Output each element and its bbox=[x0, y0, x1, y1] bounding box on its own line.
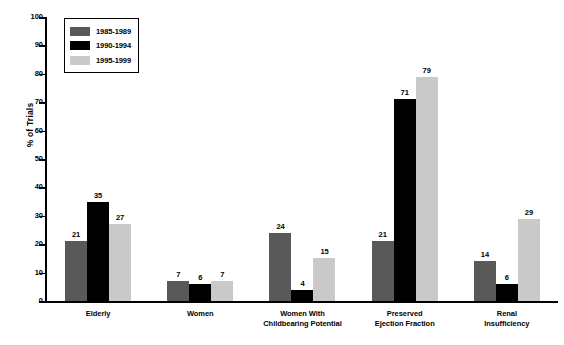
bar bbox=[189, 284, 211, 301]
x-axis-line bbox=[45, 301, 558, 303]
bar-value-label: 29 bbox=[525, 209, 533, 217]
x-axis-category-line: Women bbox=[145, 309, 255, 319]
y-tick-mark bbox=[39, 74, 45, 76]
bar-value-label: 27 bbox=[116, 214, 124, 222]
legend-item: 1990-1994 bbox=[70, 39, 131, 52]
bar bbox=[496, 284, 518, 301]
bar-value-label: 7 bbox=[176, 271, 180, 279]
bar bbox=[474, 261, 496, 301]
bar-value-label: 7 bbox=[220, 271, 224, 279]
x-axis-category-line: Women With bbox=[247, 309, 357, 319]
bar-chart: % of Trials 1009080706050403020100 21352… bbox=[0, 0, 564, 345]
x-axis-category-line: Preserved bbox=[350, 309, 460, 319]
y-tick-mark bbox=[39, 17, 45, 19]
bar bbox=[167, 281, 189, 301]
bar-value-label: 24 bbox=[276, 223, 284, 231]
bar-value-label: 21 bbox=[72, 231, 80, 239]
x-axis-category-label: Women WithChildbearing Potential bbox=[247, 309, 357, 328]
bar-item: 24 bbox=[269, 17, 291, 301]
bar bbox=[109, 224, 131, 301]
bar-item: 7 bbox=[167, 17, 189, 301]
x-axis-category-label: Elderly bbox=[43, 309, 153, 319]
bar-item: 6 bbox=[496, 17, 518, 301]
legend-swatch bbox=[70, 56, 90, 65]
x-axis-category-line: Insufficiency bbox=[452, 319, 562, 329]
legend-label: 1990-1994 bbox=[96, 41, 131, 50]
legend-label: 1995-1999 bbox=[96, 56, 131, 65]
x-axis-category-line: Childbearing Potential bbox=[247, 319, 357, 329]
y-tick-mark bbox=[39, 45, 45, 47]
bar bbox=[65, 241, 87, 301]
bar-item: 79 bbox=[416, 17, 438, 301]
legend-swatch bbox=[70, 27, 90, 36]
y-tick-mark bbox=[39, 102, 45, 104]
bar-item: 21 bbox=[372, 17, 394, 301]
bar bbox=[291, 290, 313, 301]
bar-value-label: 6 bbox=[198, 274, 202, 282]
bar-value-label: 14 bbox=[481, 251, 489, 259]
x-axis-category-label: RenalInsufficiency bbox=[452, 309, 562, 328]
bar-value-label: 35 bbox=[94, 192, 102, 200]
y-tick-mark bbox=[39, 187, 45, 189]
bar bbox=[416, 77, 438, 301]
bar bbox=[518, 219, 540, 301]
bar-item: 71 bbox=[394, 17, 416, 301]
bar-group-bars: 217179 bbox=[354, 17, 456, 301]
bar-item: 6 bbox=[189, 17, 211, 301]
bar-value-label: 71 bbox=[401, 89, 409, 97]
bar bbox=[211, 281, 233, 301]
legend-swatch bbox=[70, 41, 90, 50]
bar-item: 14 bbox=[474, 17, 496, 301]
bar-value-label: 79 bbox=[423, 67, 431, 75]
legend-item: 1985-1989 bbox=[70, 25, 131, 38]
bar-value-label: 15 bbox=[320, 248, 328, 256]
bar-item: 7 bbox=[211, 17, 233, 301]
legend-label: 1985-1989 bbox=[96, 27, 131, 36]
y-tick-mark bbox=[39, 244, 45, 246]
x-axis-category-label: PreservedEjection Fraction bbox=[350, 309, 460, 328]
bar bbox=[87, 202, 109, 301]
legend-item: 1995-1999 bbox=[70, 54, 131, 67]
y-tick-mark bbox=[39, 216, 45, 218]
bar-item: 4 bbox=[291, 17, 313, 301]
bar bbox=[313, 258, 335, 301]
bar-group-bars: 767 bbox=[149, 17, 251, 301]
chart-legend: 1985-19891990-19941995-1999 bbox=[64, 18, 139, 73]
bar-group-bars: 14629 bbox=[456, 17, 558, 301]
bar-group-bars: 24415 bbox=[251, 17, 353, 301]
bar-value-label: 21 bbox=[379, 231, 387, 239]
bar-value-label: 4 bbox=[300, 280, 304, 288]
bar-group: 14629RenalInsufficiency bbox=[456, 17, 558, 301]
y-tick-mark bbox=[39, 159, 45, 161]
bar bbox=[394, 99, 416, 301]
bar-value-label: 6 bbox=[505, 274, 509, 282]
x-axis-category-line: Elderly bbox=[43, 309, 153, 319]
y-tick-mark bbox=[39, 131, 45, 133]
bar bbox=[372, 241, 394, 301]
x-axis-category-line: Renal bbox=[452, 309, 562, 319]
bar-group: 24415Women WithChildbearing Potential bbox=[251, 17, 353, 301]
bar bbox=[269, 233, 291, 301]
x-axis-category-label: Women bbox=[145, 309, 255, 319]
x-axis-category-line: Ejection Fraction bbox=[350, 319, 460, 329]
bar-group: 767Women bbox=[149, 17, 251, 301]
bar-item: 15 bbox=[313, 17, 335, 301]
bar-item: 29 bbox=[518, 17, 540, 301]
y-tick-mark bbox=[39, 273, 45, 275]
bar-group: 217179PreservedEjection Fraction bbox=[354, 17, 456, 301]
